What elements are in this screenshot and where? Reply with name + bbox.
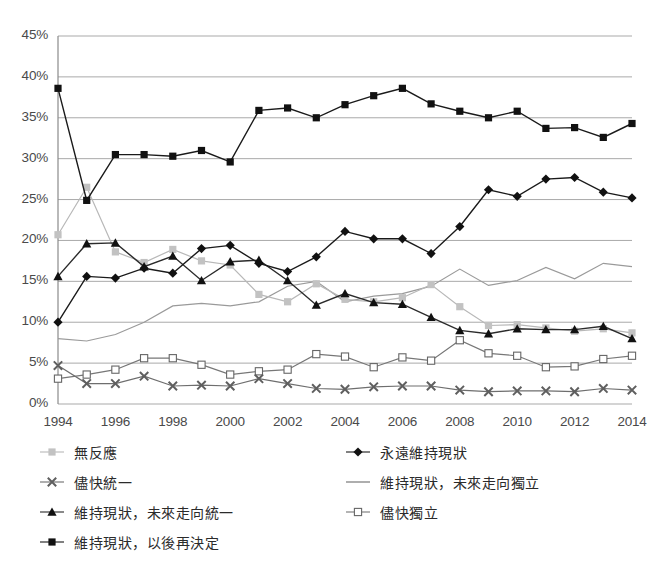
legend-item[interactable]: 儘快獨立 bbox=[340, 500, 438, 524]
series-status_quo_decide_later bbox=[54, 85, 635, 204]
legend-marker-square-open-icon bbox=[340, 502, 380, 522]
y-axis-tick: 40% bbox=[2, 68, 48, 83]
x-axis-tick: 2004 bbox=[322, 414, 368, 429]
legend-item[interactable]: 維持現狀，未來走向獨立 bbox=[340, 470, 540, 494]
marker-square-open bbox=[428, 357, 435, 364]
x-axis-tick: 1998 bbox=[150, 414, 196, 429]
legend-label: 儘快統一 bbox=[74, 472, 132, 492]
x-axis-tick: 2010 bbox=[494, 414, 540, 429]
marker-square-filled bbox=[141, 151, 148, 158]
marker-square-open bbox=[456, 337, 463, 344]
legend-item[interactable]: 維持現狀，未來走向統一 bbox=[34, 500, 234, 524]
y-axis-tick: 45% bbox=[2, 27, 48, 42]
marker-diamond bbox=[283, 267, 292, 276]
marker-square-open bbox=[169, 355, 176, 362]
chart-legend: 無反應永遠維持現狀儘快統一維持現狀，未來走向獨立維持現狀，未來走向統一儘快獨立維… bbox=[34, 440, 634, 558]
marker-diamond bbox=[226, 241, 235, 250]
marker-square-gray bbox=[54, 231, 61, 238]
marker-square-open bbox=[399, 354, 406, 361]
marker-square-filled bbox=[399, 85, 406, 92]
marker-square-open bbox=[141, 355, 148, 362]
legend-item[interactable]: 維持現狀，以後再決定 bbox=[34, 530, 219, 554]
y-axis-tick: 20% bbox=[2, 231, 48, 246]
x-axis-tick: 2014 bbox=[609, 414, 651, 429]
legend-glyph bbox=[40, 538, 64, 545]
marker-square-filled bbox=[628, 120, 635, 127]
marker-square-filled bbox=[169, 153, 176, 160]
x-axis-tick: 2000 bbox=[207, 414, 253, 429]
marker-triangle bbox=[455, 326, 464, 334]
y-axis-tick: 5% bbox=[2, 354, 48, 369]
marker-square-open bbox=[284, 366, 291, 373]
marker-square-filled bbox=[341, 101, 348, 108]
marker-diamond bbox=[53, 318, 62, 327]
legend-marker-x-gray-icon bbox=[34, 472, 74, 492]
marker-square-filled bbox=[571, 124, 578, 131]
marker-square-open bbox=[227, 371, 234, 378]
legend-label: 維持現狀，未來走向獨立 bbox=[380, 472, 540, 492]
legend-glyph bbox=[346, 508, 370, 515]
marker-square-open bbox=[54, 375, 61, 382]
legend-glyph bbox=[40, 478, 64, 486]
marker-square-gray bbox=[428, 281, 435, 288]
marker-diamond bbox=[369, 234, 378, 243]
legend-marker-square-filled-gray-icon bbox=[34, 442, 74, 462]
marker-diamond bbox=[82, 272, 91, 281]
marker-diamond bbox=[599, 188, 608, 197]
marker-square-filled bbox=[370, 92, 377, 99]
marker-square-filled bbox=[227, 158, 234, 165]
marker-square-filled bbox=[284, 104, 291, 111]
marker-square-filled bbox=[54, 85, 61, 92]
marker-square-open bbox=[370, 364, 377, 371]
marker-square-open bbox=[514, 352, 521, 359]
marker-square-gray bbox=[456, 303, 463, 310]
x-axis-tick: 1994 bbox=[35, 414, 81, 429]
y-axis-tick: 15% bbox=[2, 272, 48, 287]
marker-square-gray bbox=[284, 298, 291, 305]
marker-square-open bbox=[198, 361, 205, 368]
legend-label: 無反應 bbox=[74, 442, 118, 462]
legend-marker-triangle-filled-icon bbox=[34, 502, 74, 522]
series-status_quo_forever bbox=[53, 173, 636, 327]
marker-square-filled bbox=[456, 108, 463, 115]
legend-glyph bbox=[40, 448, 64, 455]
marker-square-open bbox=[112, 366, 119, 373]
legend-label: 維持現狀，以後再決定 bbox=[74, 532, 219, 552]
y-axis-tick: 0% bbox=[2, 395, 48, 410]
marker-square-open bbox=[600, 355, 607, 362]
legend-item[interactable]: 儘快統一 bbox=[34, 470, 132, 494]
marker-diamond bbox=[541, 175, 550, 184]
marker-square-filled bbox=[112, 151, 119, 158]
marker-square-filled bbox=[428, 100, 435, 107]
marker-square-filled bbox=[485, 114, 492, 121]
marker-square-filled bbox=[83, 197, 90, 204]
marker-square-gray bbox=[198, 257, 205, 264]
x-axis-tick: 2008 bbox=[437, 414, 483, 429]
marker-triangle bbox=[283, 276, 292, 284]
marker-triangle bbox=[427, 313, 436, 321]
marker-diamond bbox=[570, 173, 579, 182]
marker-square-filled bbox=[48, 538, 55, 545]
legend-marker-line-only-icon bbox=[340, 472, 380, 492]
legend-label: 儘快獨立 bbox=[380, 502, 438, 522]
legend-item[interactable]: 無反應 bbox=[34, 440, 118, 464]
marker-triangle bbox=[340, 289, 349, 297]
x-axis-tick: 1996 bbox=[92, 414, 138, 429]
x-axis-tick: 2012 bbox=[552, 414, 598, 429]
marker-square-open bbox=[255, 368, 262, 375]
marker-square-open bbox=[542, 364, 549, 371]
marker-diamond bbox=[353, 447, 362, 456]
y-axis-tick: 10% bbox=[2, 313, 48, 328]
y-axis-tick: 25% bbox=[2, 191, 48, 206]
series-no_response bbox=[54, 184, 635, 337]
marker-square-filled bbox=[542, 125, 549, 132]
x-axis-tick: 2002 bbox=[265, 414, 311, 429]
marker-square-gray bbox=[48, 448, 55, 455]
legend-glyph bbox=[346, 447, 370, 456]
marker-square-gray bbox=[255, 291, 262, 298]
legend-marker-diamond-filled-icon bbox=[340, 442, 380, 462]
series-independence_asap bbox=[54, 337, 635, 383]
marker-square-open bbox=[313, 351, 320, 358]
legend-item[interactable]: 永遠維持現狀 bbox=[340, 440, 467, 464]
